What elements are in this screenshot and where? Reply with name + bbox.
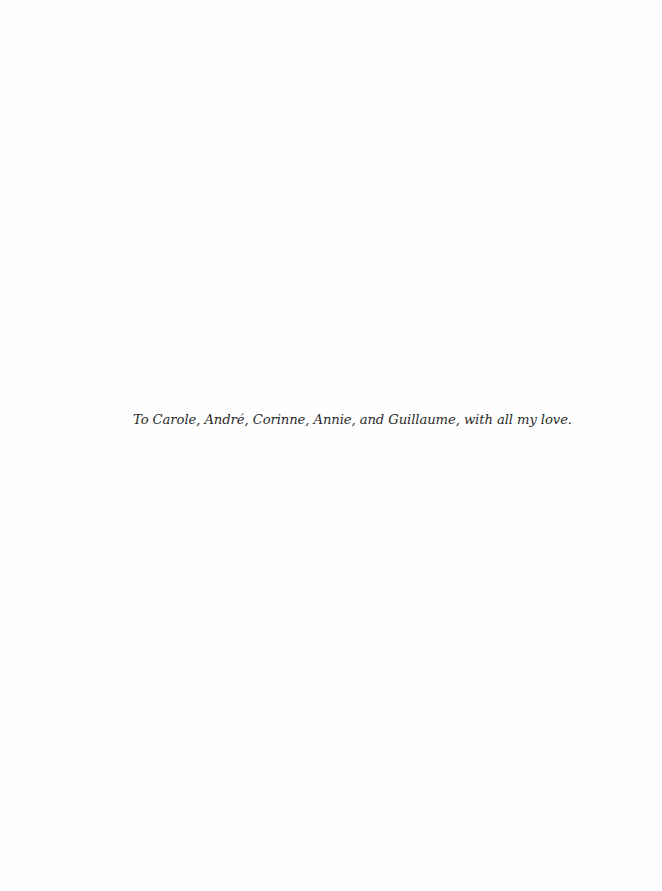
dedication-page: To Carole, André, Corinne, Annie, and Gu… [0,0,662,891]
dedication-text: To Carole, André, Corinne, Annie, and Gu… [133,410,533,430]
